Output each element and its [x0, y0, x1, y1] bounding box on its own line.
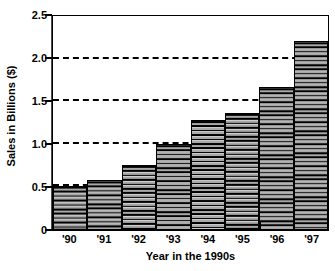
x-axis-tick-mark	[87, 222, 88, 231]
x-axis-tick-mark	[225, 222, 226, 231]
x-axis-title: Year in the 1990s	[52, 250, 329, 262]
bar-94[interactable]	[191, 120, 225, 229]
x-axis-tick-label: '94	[191, 233, 226, 249]
y-axis-title-text: Sales in Billions ($)	[5, 66, 17, 167]
x-axis-tick-label: '91	[87, 233, 122, 249]
bars-container	[53, 16, 328, 229]
bar-95[interactable]	[225, 113, 259, 229]
y-axis-tick-labels: 00.51.01.52.02.5	[22, 0, 50, 240]
bar-96[interactable]	[259, 87, 293, 229]
y-axis-tick-mark	[45, 186, 52, 188]
plot-area	[52, 15, 329, 230]
x-axis-tick-label: '92	[121, 233, 156, 249]
y-axis-tick-mark	[45, 143, 52, 145]
x-axis-tick-labels: '90'91'92'93'94'95'96'97	[52, 233, 329, 249]
x-axis-tick-marks	[52, 222, 329, 231]
y-axis-title: Sales in Billions ($)	[0, 0, 22, 232]
y-axis-tick-mark	[45, 57, 52, 59]
bar-92[interactable]	[122, 165, 156, 229]
y-axis-tick-mark	[45, 100, 52, 102]
bar-chart-figure: Sales in Billions ($) 00.51.01.52.02.5 '…	[0, 0, 335, 271]
x-axis-tick-mark	[191, 222, 192, 231]
y-axis-tick-mark	[45, 14, 52, 16]
bar-97[interactable]	[294, 41, 328, 229]
x-axis-tick-mark	[156, 222, 157, 231]
x-axis-tick-mark	[121, 222, 122, 231]
bar-93[interactable]	[156, 144, 190, 229]
x-axis-tick-label: '97	[294, 233, 329, 249]
x-axis-tick-label: '93	[156, 233, 191, 249]
x-axis-tick-mark	[294, 222, 295, 231]
x-axis-tick-label: '95	[225, 233, 260, 249]
x-axis-tick-label: '96	[260, 233, 295, 249]
x-axis-tick-mark	[260, 222, 261, 231]
x-axis-tick-label: '90	[52, 233, 87, 249]
y-axis-tick-mark	[45, 229, 52, 231]
